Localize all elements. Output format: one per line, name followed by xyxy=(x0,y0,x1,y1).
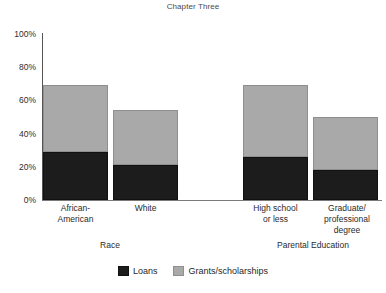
group-label-race: Race xyxy=(70,240,150,251)
bar-graduate-professional-degree xyxy=(313,117,378,200)
y-tick-40: 40% xyxy=(0,130,36,139)
bar-segment-grants xyxy=(243,85,308,157)
legend-swatch-loans-icon xyxy=(118,266,129,276)
legend-swatch-grants-icon xyxy=(173,266,184,276)
category-label-line: African- xyxy=(43,203,108,214)
y-tick-0: 0% xyxy=(0,196,36,205)
y-tick-20: 20% xyxy=(0,163,36,172)
y-tick-60: 60% xyxy=(0,96,36,105)
bar-segment-grants xyxy=(113,110,178,165)
category-label-line: or less xyxy=(241,214,310,225)
chart-container: Chapter Three 100% 80% 60% 40% 20% 0% Af… xyxy=(0,0,386,293)
category-label-line: White xyxy=(113,203,178,214)
chart-title: Chapter Three xyxy=(0,2,386,11)
x-axis-line xyxy=(42,200,382,201)
bar-segment-loans xyxy=(313,170,378,200)
category-label-line: professional xyxy=(312,214,382,225)
legend-item-loans: Loans xyxy=(118,266,158,276)
category-label-graduate-professional-degree: Graduate/ professional degree xyxy=(312,203,382,236)
category-label-line: American xyxy=(43,214,108,225)
legend-item-grants: Grants/scholarships xyxy=(173,266,268,276)
y-tick-100: 100% xyxy=(0,30,36,39)
category-label-african-american: African- American xyxy=(43,203,108,225)
chart-legend: Loans Grants/scholarships xyxy=(0,266,386,276)
bar-segment-loans xyxy=(243,157,308,200)
category-label-high-school-or-less: High school or less xyxy=(241,203,310,225)
bar-high-school-or-less xyxy=(243,85,308,200)
legend-label-loans: Loans xyxy=(133,266,158,276)
legend-label-grants: Grants/scholarships xyxy=(188,266,268,276)
y-tick-80: 80% xyxy=(0,63,36,72)
category-label-white: White xyxy=(113,203,178,214)
bar-segment-loans xyxy=(43,152,108,200)
category-label-line: degree xyxy=(312,225,382,236)
bar-african-american xyxy=(43,85,108,200)
category-label-line: High school xyxy=(241,203,310,214)
bar-segment-grants xyxy=(43,85,108,152)
bar-white xyxy=(113,110,178,200)
bar-segment-loans xyxy=(113,165,178,200)
bar-segment-grants xyxy=(313,117,378,170)
group-label-parental-education: Parental Education xyxy=(258,240,368,251)
category-label-line: Graduate/ xyxy=(312,203,382,214)
